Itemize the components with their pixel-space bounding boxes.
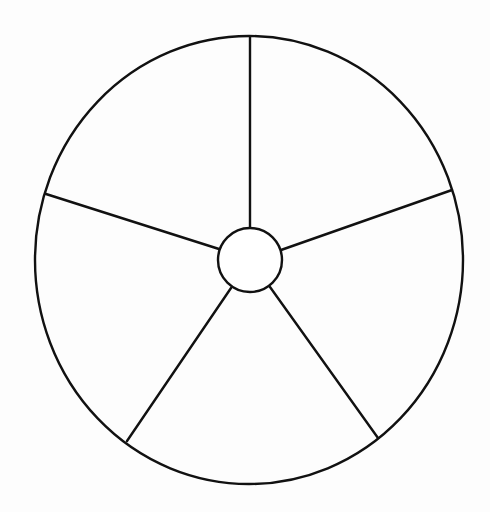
spoke-lower-left xyxy=(127,288,231,441)
spoke-upper-left xyxy=(46,194,219,249)
spoke-lower-right xyxy=(270,287,378,438)
wheel-diagram xyxy=(0,0,490,512)
center-hub-circle xyxy=(218,228,282,292)
spoke-upper-right xyxy=(281,190,452,250)
